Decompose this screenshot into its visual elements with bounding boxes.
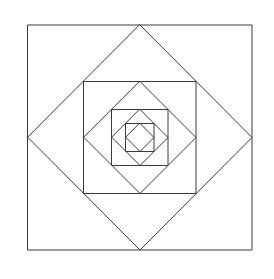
square-4 [126,124,154,152]
diamond-2 [84,82,196,194]
square-3 [112,110,168,166]
figure-canvas [0,0,274,279]
diamond-3 [112,110,168,166]
diamond-1 [28,25,252,250]
square-2 [84,82,196,194]
outer-square [28,25,252,250]
nested-squares-figure [0,0,274,279]
diamond-4 [126,124,154,152]
